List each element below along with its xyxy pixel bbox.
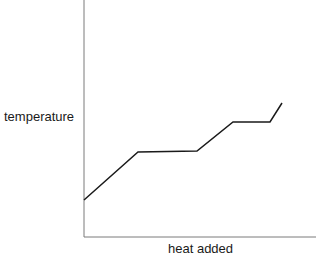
x-axis-label: heat added [168, 241, 233, 256]
y-axis-label: temperature [4, 109, 74, 124]
chart-canvas [0, 0, 321, 259]
heating-curve-line [84, 103, 282, 200]
